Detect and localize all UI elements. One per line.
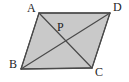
vertex-label-b: B — [9, 58, 17, 70]
parallelogram-diagram-svg — [0, 0, 129, 82]
vertex-label-a: A — [27, 2, 36, 14]
vertex-label-c: C — [95, 66, 103, 78]
point-label-p: P — [57, 21, 64, 33]
geometry-figure: A D C B P — [0, 0, 129, 82]
vertex-label-d: D — [113, 1, 122, 13]
